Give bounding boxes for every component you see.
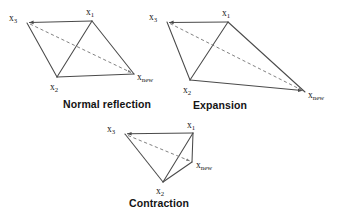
panel-contraction: x1 x2 x3 xnew Contraction [107,120,212,209]
contraction-axis-dashed [128,136,190,161]
vertex-labels-contraction: x1 x2 x3 xnew [107,120,212,197]
edge-x3-x2 [27,23,57,77]
simplex-edges-expansion [167,22,305,92]
panel-expansion: x1 x2 x3 xnew Expansion [149,8,324,111]
vertex-label-x1: x1 [86,7,94,18]
reflection-axis-dashed [30,24,131,73]
vertex-label-x2: x2 [156,186,165,197]
edge-x2-xnew [57,74,134,77]
edge-x1-x2 [190,22,228,80]
panel-caption-contraction: Contraction [129,197,189,209]
vertex-label-xnew: xnew [137,72,153,83]
figure-canvas: x1 x2 x3 xnew Normal reflection [0,0,342,216]
edge-x1-xnew [228,22,305,92]
edge-x3-x1 [128,133,194,134]
simplex-edges-normal-reflection [27,21,134,77]
edge-x3-x2 [125,134,163,182]
vertex-label-x3: x3 [9,13,18,24]
panel-caption-expansion: Expansion [193,99,247,111]
vertex-label-x1: x1 [222,8,230,19]
edge-x3-x1 [30,21,93,22]
panel-caption-normal-reflection: Normal reflection [63,98,151,110]
vertex-label-x3: x3 [107,124,116,135]
vertex-label-x2: x2 [50,82,59,93]
vertex-label-xnew: xnew [308,90,324,101]
edge-x2-xnew [163,162,192,182]
edge-x1-xnew [92,21,134,74]
simplex-operations-figure: x1 x2 x3 xnew Normal reflection [0,0,342,216]
vertex-label-xnew: xnew [196,160,212,171]
vertex-label-x3: x3 [149,12,158,23]
panel-normal-reflection: x1 x2 x3 xnew Normal reflection [9,7,153,110]
edge-x1-x2 [163,133,193,182]
edge-x1-xnew [192,133,193,162]
vertex-label-x2: x2 [183,85,192,96]
edge-x3-x2 [167,22,190,80]
vertex-labels-normal-reflection: x1 x2 x3 xnew [9,7,153,93]
simplex-edges-contraction [125,133,193,182]
edge-x1-x2 [57,21,92,77]
vertex-label-x1: x1 [187,120,195,131]
